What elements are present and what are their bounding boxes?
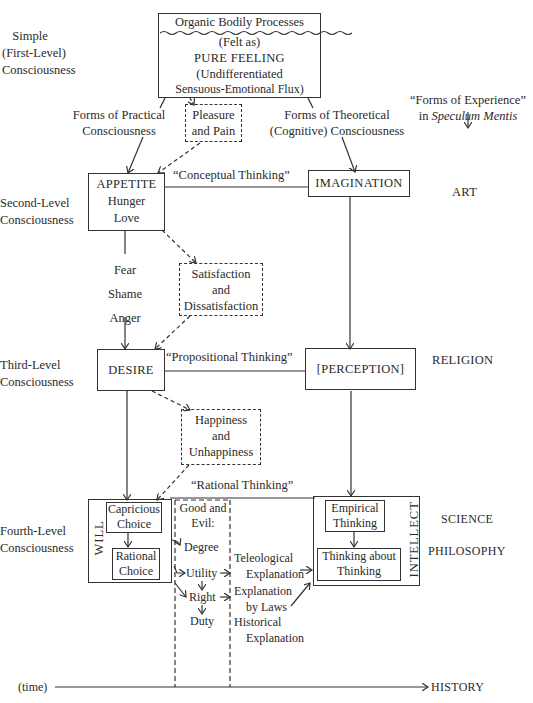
level-fourth-label: Fourth-Level Consciousness xyxy=(0,523,74,557)
historical-explanation: Historical Explanation xyxy=(234,614,304,646)
empirical-line2: Thinking xyxy=(325,516,385,531)
level-second-line2: Consciousness xyxy=(0,212,74,229)
felt-as: (Felt as) xyxy=(158,35,321,50)
empirical-line1: Empirical xyxy=(325,501,385,516)
theoretical-consciousness-label: Forms of Theoretical (Cognitive) Conscio… xyxy=(262,107,412,139)
pleasure-line1: Pleasure xyxy=(185,107,242,123)
time-label: (time) xyxy=(18,680,47,695)
love: Love xyxy=(88,210,165,227)
theoretical-line2: (Cognitive) Consciousness xyxy=(262,123,412,139)
philosophy-label: PHILOSOPHY xyxy=(428,544,506,559)
level-third-line1: Third-Level xyxy=(0,357,74,374)
capricious-choice-text: Capricious Choice xyxy=(106,502,162,532)
intellect-label: INTELLECT xyxy=(407,508,422,578)
capricious-line2: Choice xyxy=(106,517,162,532)
level-fourth-line1: Fourth-Level xyxy=(0,523,74,540)
level-first-line3: Consciousness xyxy=(2,62,58,79)
level-fourth-line2: Consciousness xyxy=(0,540,74,557)
right: Right xyxy=(189,590,216,605)
rational-line1: Rational xyxy=(112,549,160,564)
explanation-by-laws: Explanation by Laws xyxy=(234,583,292,615)
science-label: SCIENCE xyxy=(441,512,493,527)
practical-line2: Consciousness xyxy=(64,123,174,139)
degree: Degree xyxy=(184,540,219,555)
thinking-about-line2: Thinking xyxy=(317,564,401,579)
level-third-line2: Consciousness xyxy=(0,374,74,391)
historical-line2: Explanation xyxy=(234,630,304,646)
level-first-line2: (First-Level) xyxy=(2,45,58,62)
shame: Shame xyxy=(100,282,150,306)
good-evil-line2: Evil: xyxy=(175,516,231,531)
level-first-line1: Simple xyxy=(2,28,58,45)
in-prefix: in xyxy=(419,109,432,123)
duty: Duty xyxy=(190,614,214,629)
fear: Fear xyxy=(100,258,150,282)
emotions-list: Fear Shame Anger xyxy=(100,258,150,330)
propositional-thinking-label: “Propositional Thinking” xyxy=(166,350,293,365)
desire-text: DESIRE xyxy=(97,363,165,378)
appetite-title: APPETITE xyxy=(88,176,165,193)
satisfaction-line3: Dissatisfaction xyxy=(179,298,263,314)
thinking-about-line1: Thinking about xyxy=(317,549,401,564)
satisfaction-text: Satisfaction and Dissatisfaction xyxy=(179,266,263,314)
utility: Utility xyxy=(186,566,217,581)
religion-label: RELIGION xyxy=(432,353,493,368)
imagination-text: IMAGINATION xyxy=(308,176,410,191)
forms-of-experience-line1: “Forms of Experience” xyxy=(402,92,533,108)
thinking-about-thinking-text: Thinking about Thinking xyxy=(317,549,401,579)
good-evil-line1: Good and xyxy=(175,501,231,516)
rational-thinking-label: “Rational Thinking” xyxy=(191,478,293,493)
level-second-line1: Second-Level xyxy=(0,195,74,212)
pleasure-pain-text: Pleasure and Pain xyxy=(185,107,242,139)
practical-consciousness-label: Forms of Practical Consciousness xyxy=(64,107,174,139)
anger: Anger xyxy=(100,306,150,330)
laws-line1: Explanation xyxy=(234,583,292,599)
speculum-mentis: Speculum Mentis xyxy=(432,109,518,123)
pure-feeling: PURE FEELING xyxy=(158,51,321,66)
appetite-text: APPETITE Hunger Love xyxy=(88,176,165,227)
historical-line1: Historical xyxy=(234,614,304,630)
conceptual-thinking-label: “Conceptual Thinking” xyxy=(173,168,290,183)
empirical-thinking-text: Empirical Thinking xyxy=(325,501,385,531)
level-third-label: Third-Level Consciousness xyxy=(0,357,74,391)
happiness-line1: Happiness xyxy=(181,412,261,428)
art-label: ART xyxy=(452,185,477,200)
good-evil-header: Good and Evil: xyxy=(175,501,231,531)
happiness-line3: Unhappiness xyxy=(181,444,261,460)
level-first-label: Simple (First-Level) Consciousness xyxy=(2,28,58,79)
laws-line2: by Laws xyxy=(234,599,292,615)
practical-line1: Forms of Practical xyxy=(64,107,174,123)
satisfaction-line1: Satisfaction xyxy=(179,266,263,282)
history-label: HISTORY xyxy=(431,680,484,695)
teleological-line1: Teleological xyxy=(234,550,304,566)
teleological-line2: Explanation xyxy=(234,566,304,582)
happiness-text: Happiness and Unhappiness xyxy=(181,412,261,460)
pleasure-line2: and Pain xyxy=(185,123,242,139)
rational-line2: Choice xyxy=(112,564,160,579)
perception-text: [PERCEPTION] xyxy=(305,362,416,377)
teleological-explanation: Teleological Explanation xyxy=(234,550,304,582)
sensuous-emotional-flux: Sensuous-Emotional Flux) xyxy=(158,82,321,97)
theoretical-line1: Forms of Theoretical xyxy=(262,107,412,123)
organic-bodily-processes: Organic Bodily Processes xyxy=(158,15,321,30)
undifferentiated: (Undifferentiated xyxy=(158,67,321,82)
happiness-line2: and xyxy=(181,428,261,444)
forms-of-experience-line2: in Speculum Mentis xyxy=(402,108,533,124)
satisfaction-line2: and xyxy=(179,282,263,298)
rational-choice-text: Rational Choice xyxy=(112,549,160,579)
forms-of-experience-label: “Forms of Experience” in Speculum Mentis xyxy=(402,92,533,124)
will-label: WILL xyxy=(92,526,107,556)
capricious-line1: Capricious xyxy=(106,502,162,517)
level-second-label: Second-Level Consciousness xyxy=(0,195,74,229)
hunger: Hunger xyxy=(88,193,165,210)
